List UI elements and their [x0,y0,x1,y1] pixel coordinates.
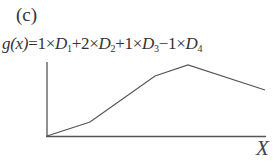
function-line [47,65,265,136]
x-axis-label: X [256,136,269,161]
plot-area [0,0,275,163]
